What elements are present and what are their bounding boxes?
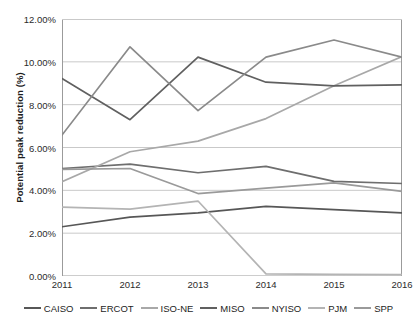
legend-swatch-icon [24,307,41,309]
series-line-iso-ne [62,56,402,181]
legend-label: CAISO [44,303,74,314]
legend-swatch-icon [200,307,217,309]
plot-svg [62,19,402,276]
legend-item-caiso[interactable]: CAISO [24,303,74,314]
legend-label: ISO-NE [161,303,194,314]
chart-legend: CAISOERCOTISO-NEMISONYISOPJMSPP [0,298,417,318]
legend-item-iso-ne[interactable]: ISO-NE [141,303,194,314]
legend-label: MISO [220,303,244,314]
legend-swatch-icon [308,307,325,309]
line-chart: Potential peak reduction (%) 0.00%2.00%4… [0,0,417,322]
legend-item-spp[interactable]: SPP [354,303,393,314]
legend-label: NYISO [272,303,302,314]
y-tick-label: 10.00% [24,56,56,67]
x-tick-label-2012: 2012 [119,279,140,290]
series-line-spp [62,168,402,193]
series-line-nyiso [62,40,402,135]
legend-swatch-icon [80,307,97,309]
series-line-miso [62,57,402,120]
y-axis-tick-labels: 0.00%2.00%4.00%6.00%8.00%10.00%12.00% [0,19,58,276]
legend-item-pjm[interactable]: PJM [308,303,347,314]
legend-item-ercot[interactable]: ERCOT [80,303,133,314]
legend-label: PJM [328,303,347,314]
y-tick-label: 2.00% [29,228,56,239]
x-tick-label-2013: 2013 [187,279,208,290]
series-line-ercot [62,164,402,183]
y-tick-label: 4.00% [29,185,56,196]
x-tick-label-2015: 2015 [323,279,344,290]
x-axis-tick-labels: 201120122013201420152016 [62,279,402,295]
y-tick-label: 12.00% [24,14,56,25]
x-tick-label-2016: 2016 [391,279,412,290]
legend-label: SPP [374,303,393,314]
legend-item-nyiso[interactable]: NYISO [252,303,302,314]
x-tick-label-2011: 2011 [52,279,72,290]
legend-item-miso[interactable]: MISO [200,303,244,314]
legend-label: ERCOT [100,303,133,314]
y-tick-label: 6.00% [29,142,56,153]
legend-swatch-icon [252,307,269,309]
series-line-pjm [62,201,402,275]
legend-swatch-icon [141,307,158,309]
x-tick-label-2014: 2014 [255,279,276,290]
legend-swatch-icon [354,307,371,309]
y-tick-label: 8.00% [29,99,56,110]
plot-area [62,19,402,276]
